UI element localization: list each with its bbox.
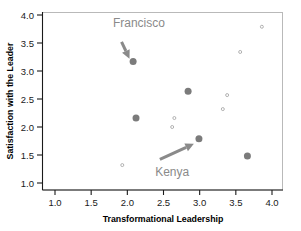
figure-background <box>0 0 301 231</box>
data-point-filled <box>130 58 137 65</box>
x-tick-label: 2.0 <box>121 197 134 208</box>
data-point-filled <box>244 153 251 160</box>
data-point-filled <box>133 115 140 122</box>
y-axis-title: Satisfaction with the Leader <box>5 42 15 159</box>
y-tick-label: 1.0 <box>21 178 34 189</box>
y-tick-label: 2.5 <box>21 94 34 105</box>
y-tick-label: 1.5 <box>21 150 34 161</box>
x-tick-label: 1.0 <box>48 197 61 208</box>
data-point-filled <box>195 135 202 142</box>
y-tick-label: 2.0 <box>21 122 34 133</box>
scatter-plot-figure: 1.01.52.02.53.03.54.0 Satisfaction with … <box>0 0 301 231</box>
x-tick-label: 2.5 <box>157 197 170 208</box>
plot-canvas: 1.01.52.02.53.03.54.0 Satisfaction with … <box>0 0 301 231</box>
x-tick-label: 3.0 <box>193 197 206 208</box>
y-tick-label: 3.5 <box>21 38 34 49</box>
x-axis-title: Transformational Leadership <box>103 214 224 224</box>
annotation-label-kenya: Kenya <box>155 165 189 179</box>
x-tick-label: 1.5 <box>85 197 98 208</box>
x-tick-label: 3.5 <box>229 197 242 208</box>
y-tick-label: 3.0 <box>21 66 34 77</box>
annotation-label-francisco: Francisco <box>113 16 165 30</box>
x-tick-label: 4.0 <box>265 197 278 208</box>
y-tick-label: 4.0 <box>21 10 34 21</box>
data-point-filled <box>185 88 192 95</box>
